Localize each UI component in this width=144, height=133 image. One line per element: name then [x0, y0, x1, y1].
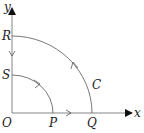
origin-label: O [2, 116, 12, 130]
point-s-label: S [2, 68, 10, 82]
point-q-label: Q [87, 116, 97, 130]
inner-arc [12, 75, 53, 113]
outer-arc-curve-c [12, 36, 92, 113]
x-axis-label: x [134, 106, 141, 120]
y-axis-label: y [3, 0, 11, 14]
diagram-canvas: y x O P Q R S C [0, 0, 144, 133]
point-p-label: P [48, 116, 58, 130]
curve-c-label: C [92, 78, 101, 92]
point-r-label: R [1, 29, 11, 43]
